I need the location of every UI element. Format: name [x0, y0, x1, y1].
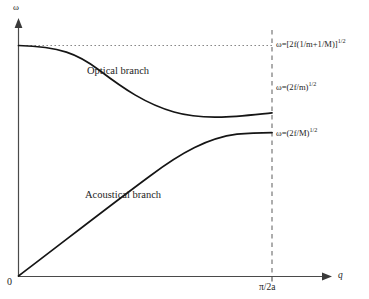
optical-zone-boundary-limit-exponent: 1/2	[308, 80, 316, 87]
optical-zone-center-limit-base: ω=[2f(1/m+1/M)]	[276, 39, 338, 49]
x-axis-label: q	[338, 271, 343, 281]
optical-zone-boundary-limit-base: ω=(2f/m)	[276, 82, 308, 92]
phonon-dispersion-figure: ω q 0 π/2a Optical branch Acoustical bra…	[0, 0, 369, 299]
optical-branch-label: Optical branch	[87, 66, 149, 77]
acoustical-zone-boundary-limit-base: ω=(2f/M)	[276, 128, 309, 138]
acoustical-branch-curve	[19, 133, 273, 276]
y-axis	[15, 18, 23, 277]
y-axis-label: ω	[13, 3, 19, 12]
optical-zone-center-limit-label: ω=[2f(1/m+1/M)]1/2	[276, 40, 346, 49]
acoustical-branch-label: Acoustical branch	[85, 190, 161, 201]
x-tick-label-pi-over-2a: π/2a	[259, 283, 275, 293]
acoustical-zone-boundary-limit-label: ω=(2f/M)1/2	[276, 129, 317, 138]
optical-zone-boundary-limit-label: ω=(2f/m)1/2	[276, 83, 316, 92]
acoustical-zone-boundary-limit-exponent: 1/2	[309, 126, 317, 133]
optical-branch-curve	[19, 46, 273, 118]
origin-label: 0	[7, 277, 12, 287]
x-axis	[19, 273, 333, 281]
optical-zone-center-limit-exponent: 1/2	[338, 37, 346, 44]
